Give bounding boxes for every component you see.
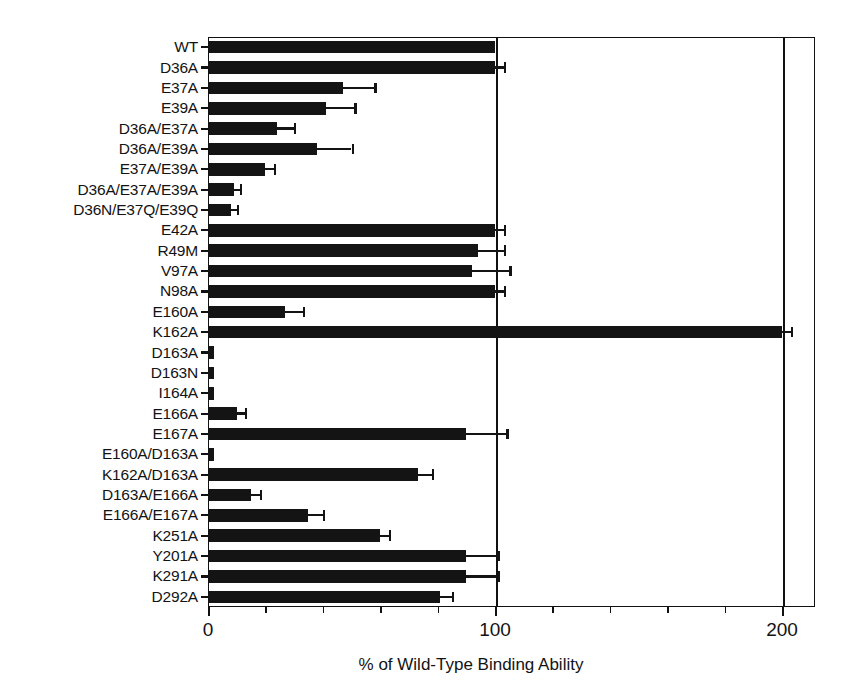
- category-label-v97a: V97A: [161, 263, 198, 279]
- category-tick: [201, 270, 208, 272]
- bar-row: [208, 41, 815, 54]
- error-bar-line: [343, 87, 375, 89]
- bar-k162a: [208, 326, 782, 339]
- x-major-tick: [495, 607, 497, 616]
- bar-row: [208, 204, 815, 217]
- value-axis-ticks: [208, 607, 815, 619]
- category-label-wt: WT: [174, 39, 198, 55]
- category-tick: [201, 514, 208, 516]
- category-tick: [201, 311, 208, 313]
- category-label-k162a-d163a: K162A/D163A: [102, 467, 198, 483]
- category-tick: [201, 250, 208, 252]
- x-minor-tick: [380, 607, 382, 613]
- bar-d163a: [208, 346, 214, 359]
- category-tick: [201, 189, 208, 191]
- category-tick: [201, 453, 208, 455]
- bar-row: [208, 570, 815, 583]
- error-bar-cap: [354, 103, 356, 114]
- error-bar-line: [251, 494, 260, 496]
- category-tick: [201, 351, 208, 353]
- category-label-d292a: D292A: [152, 589, 198, 605]
- category-label-d163a: D163A: [152, 345, 198, 361]
- x-minor-tick: [610, 607, 612, 613]
- bar-row: [208, 183, 815, 196]
- bar-wt: [208, 41, 495, 54]
- x-minor-tick: [552, 607, 554, 613]
- category-label-e37a-e39a: E37A/E39A: [120, 161, 198, 177]
- error-bar-cap: [260, 490, 262, 501]
- bar-d36a: [208, 61, 495, 74]
- bar-row: [208, 326, 815, 339]
- bar-d36a-e37a-e39a: [208, 183, 234, 196]
- category-tick: [201, 128, 208, 130]
- category-tick: [201, 107, 208, 109]
- category-label-k162a: K162A: [152, 324, 198, 340]
- category-tick: [201, 46, 208, 48]
- error-bar-line: [495, 229, 504, 231]
- error-bar-line: [472, 270, 509, 272]
- error-bar-cap: [294, 123, 296, 134]
- category-label-d36a-e37a-e39a: D36A/E37A/E39A: [78, 182, 198, 198]
- bar-v97a: [208, 265, 472, 278]
- bar-d292a: [208, 591, 440, 604]
- category-label-e39a: E39A: [161, 100, 198, 116]
- bar-row: [208, 489, 815, 502]
- category-tick: [201, 392, 208, 394]
- category-label-r49m: R49M: [157, 243, 198, 259]
- category-label-y201a: Y201A: [152, 548, 198, 564]
- bar-d163n: [208, 367, 214, 380]
- bar-e160a: [208, 306, 285, 319]
- error-bar-line: [380, 535, 389, 537]
- x-tick-label-0: 0: [203, 620, 214, 639]
- category-label-k291a: K291A: [152, 568, 198, 584]
- bar-y201a: [208, 550, 466, 563]
- category-tick: [201, 575, 208, 577]
- error-bar-cap: [432, 469, 434, 480]
- bar-e39a: [208, 102, 326, 115]
- x-tick-label-100: 100: [479, 620, 511, 639]
- bar-row: [208, 285, 815, 298]
- bar-e37a-e39a: [208, 163, 265, 176]
- bar-i164a: [208, 387, 214, 400]
- error-bar-cap: [352, 144, 354, 155]
- value-axis-tick-labels: 0100200: [0, 620, 850, 644]
- error-bar-line: [478, 250, 504, 252]
- bar-row: [208, 346, 815, 359]
- bar-d36a-e37a: [208, 122, 277, 135]
- category-tick: [201, 555, 208, 557]
- x-minor-tick: [265, 607, 267, 613]
- category-tick: [201, 290, 208, 292]
- error-bar-line: [317, 148, 351, 150]
- bar-k291a: [208, 570, 466, 583]
- bar-row: [208, 122, 815, 135]
- x-tick-label-200: 200: [766, 620, 798, 639]
- category-tick: [201, 596, 208, 598]
- bar-row: [208, 428, 815, 441]
- category-label-e167a: E167A: [152, 426, 198, 442]
- error-bar-line: [466, 433, 506, 435]
- category-tick: [201, 331, 208, 333]
- category-tick: [201, 148, 208, 150]
- bar-d163a-e166a: [208, 489, 251, 502]
- error-bar-cap: [498, 571, 500, 582]
- bar-r49m: [208, 244, 478, 257]
- bar-k251a: [208, 529, 380, 542]
- x-minor-tick: [725, 607, 727, 613]
- error-bar-line: [466, 555, 498, 557]
- bar-e166a: [208, 407, 237, 420]
- bar-row: [208, 82, 815, 95]
- category-tick: [201, 535, 208, 537]
- category-tick: [201, 87, 208, 89]
- error-bar-cap: [452, 592, 454, 603]
- category-tick: [201, 209, 208, 211]
- error-bar-cap: [509, 266, 511, 277]
- error-bar-line: [495, 66, 504, 68]
- error-bar-cap: [237, 205, 239, 216]
- bar-e42a: [208, 224, 495, 237]
- category-label-d163n: D163N: [151, 365, 198, 381]
- category-tick: [201, 494, 208, 496]
- bar-row: [208, 509, 815, 522]
- category-label-e42a: E42A: [161, 222, 198, 238]
- category-label-e160a: E160A: [152, 304, 198, 320]
- category-tick: [201, 168, 208, 170]
